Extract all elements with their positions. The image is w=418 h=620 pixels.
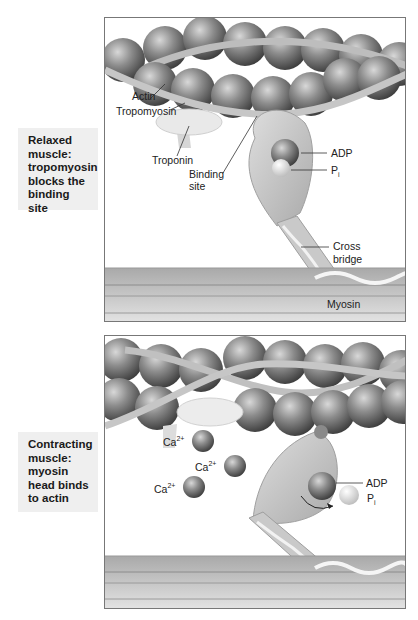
cross-bridge-label-line1: Cross [333,240,360,252]
pi-molecule [272,159,290,177]
adp-label: ADP [366,477,388,489]
binding-site-label-line1: Binding [189,168,224,180]
adp-label: ADP [331,147,353,159]
caption-line: muscle: [28,148,92,162]
relaxed-muscle-panel: Actin Tropomyosin Troponin Binding site … [104,17,406,322]
tropomyosin-label: Tropomyosin [116,105,176,117]
troponin-label: Troponin [152,154,193,166]
contracting-caption: Contracting muscle: myosin head binds to… [18,432,98,512]
pi-label: Pi [331,164,340,181]
troponin [177,398,243,426]
calcium-ion [192,430,214,452]
calcium-ion [183,476,205,498]
caption-line: Relaxed [28,134,92,148]
myosin-label: Myosin [327,298,360,310]
caption-line: blocks the [28,175,92,189]
actin-label: Actin [132,90,155,102]
binding-site-label-line2: site [189,180,205,192]
pi-label: Pi [367,492,376,509]
caption-line: Contracting [28,438,92,452]
pi-molecule [339,485,359,505]
calcium-ion [224,455,246,477]
relaxed-diagram [105,18,406,322]
caption-line: myosin [28,465,92,479]
contracting-muscle-panel: Ca2+ Ca2+ Ca2+ ADP Pi [104,335,406,609]
cross-bridge-label-line2: bridge [333,253,362,265]
calcium-label: Ca2+ [154,480,175,495]
caption-line: tropomyosin [28,161,92,175]
caption-line: binding site [28,188,92,215]
adp-molecule [308,472,336,500]
myosin-filament [105,268,406,322]
binding-site-contact [314,425,328,439]
caption-line: head binds [28,479,92,493]
relaxed-caption: Relaxed muscle: tropomyosin blocks the b… [18,128,98,210]
caption-line: muscle: [28,452,92,466]
caption-line: to actin [28,492,92,506]
calcium-label: Ca2+ [163,433,184,448]
calcium-label: Ca2+ [195,458,216,473]
contracting-diagram [105,336,406,609]
